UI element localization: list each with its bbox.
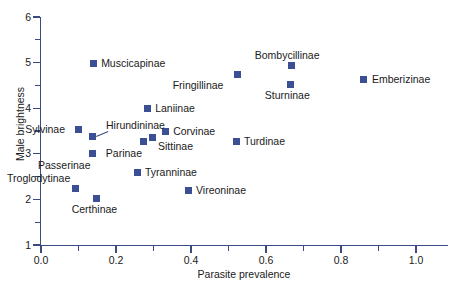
data-point-marker[interactable] <box>72 185 79 192</box>
y-tick-major <box>33 62 40 63</box>
data-point-marker[interactable] <box>234 71 241 78</box>
data-point-label: Sylvinae <box>25 124 65 135</box>
x-tick-major <box>115 246 116 253</box>
y-tick-major <box>33 153 40 154</box>
data-point-marker[interactable] <box>93 195 100 202</box>
data-point-marker[interactable] <box>140 138 147 145</box>
data-point-marker[interactable] <box>144 105 151 112</box>
x-tick-major <box>415 246 416 253</box>
x-tick-label: 0.0 <box>21 255 61 266</box>
label-leader-line <box>96 131 108 137</box>
data-point-marker[interactable] <box>89 133 96 140</box>
x-tick-label: 1.0 <box>396 255 436 266</box>
x-tick-major <box>190 246 191 253</box>
x-tick-minor <box>378 246 379 251</box>
data-point-label: Certhinae <box>72 204 118 215</box>
y-tick-minor <box>35 222 40 223</box>
y-tick-major <box>33 108 40 109</box>
data-point-marker[interactable] <box>185 187 192 194</box>
data-point-label: Fringillinae <box>173 80 224 91</box>
y-tick-major <box>33 244 40 245</box>
x-tick-minor <box>153 246 154 251</box>
x-axis-title: Parasite prevalence <box>40 268 448 280</box>
x-tick-major <box>40 246 41 253</box>
x-tick-minor <box>228 246 229 251</box>
data-point-label: Laniinae <box>155 103 195 114</box>
x-tick-minor <box>303 246 304 251</box>
x-tick-minor <box>78 246 79 251</box>
y-tick-major <box>33 16 40 17</box>
data-point-label: Emberizinae <box>372 74 430 85</box>
data-point-label: Hirundininae <box>106 120 165 131</box>
data-point-label: Vireoninae <box>196 185 246 196</box>
x-axis-line <box>40 245 448 246</box>
y-tick-label: 2 <box>3 194 31 205</box>
data-point-marker[interactable] <box>233 138 240 145</box>
y-tick-label: 1 <box>3 240 31 251</box>
data-point-label: Passerinae <box>38 160 91 171</box>
data-point-label: Sturninae <box>265 90 310 101</box>
data-point-label: Corvinae <box>173 126 215 137</box>
data-point-label: Turdinae <box>244 136 285 147</box>
y-axis-title: Male brightness <box>14 64 26 184</box>
y-tick-major <box>33 199 40 200</box>
x-tick-major <box>340 246 341 253</box>
scatter-plot: 123456 0.00.20.40.60.81.0 Male brightnes… <box>0 0 463 286</box>
data-point-marker[interactable] <box>89 150 96 157</box>
data-point-label: Parinae <box>106 148 142 159</box>
data-point-label: Tyranninae <box>145 167 197 178</box>
y-tick-label: 6 <box>3 12 31 23</box>
data-point-label: Sittinae <box>158 141 193 152</box>
x-tick-label: 0.2 <box>96 255 136 266</box>
x-tick-label: 0.4 <box>171 255 211 266</box>
x-tick-major <box>265 246 266 253</box>
data-point-marker[interactable] <box>149 134 156 141</box>
data-point-label: Muscicapinae <box>101 58 165 69</box>
y-tick-minor <box>35 85 40 86</box>
data-point-marker[interactable] <box>134 169 141 176</box>
y-tick-minor <box>35 39 40 40</box>
x-tick-label: 0.8 <box>321 255 361 266</box>
x-tick-label: 0.6 <box>246 255 286 266</box>
data-point-marker[interactable] <box>90 60 97 67</box>
data-point-label: Troglodytinae <box>7 173 70 184</box>
data-point-label: Bombycillinae <box>255 50 320 61</box>
data-point-marker[interactable] <box>75 126 82 133</box>
data-point-marker[interactable] <box>360 76 367 83</box>
data-point-marker[interactable] <box>288 62 295 69</box>
data-point-marker[interactable] <box>287 81 294 88</box>
